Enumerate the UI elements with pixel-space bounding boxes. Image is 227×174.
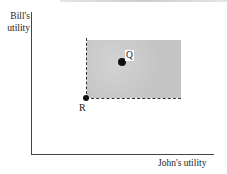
y-axis-label: Bill's utility — [2, 10, 30, 34]
point-q-label: Q — [125, 50, 134, 61]
point-r — [83, 95, 89, 101]
cropped-text-remnant — [60, 0, 227, 2]
y-axis-label-line2: utility — [2, 22, 30, 34]
x-axis — [31, 154, 214, 155]
x-axis-label: John's utility — [158, 158, 206, 168]
dashed-vertical-line — [86, 38, 87, 99]
y-axis — [31, 12, 32, 155]
point-r-label: R — [79, 102, 86, 113]
dashed-horizontal-line — [86, 98, 181, 99]
y-axis-label-line1: Bill's — [2, 10, 30, 22]
shaded-region — [87, 40, 181, 98]
